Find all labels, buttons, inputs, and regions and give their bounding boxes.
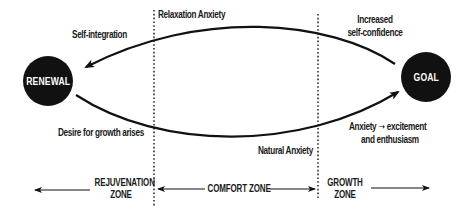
goal-label: GOAL xyxy=(413,71,438,83)
and-enthusiasm-label: and enthusiasm xyxy=(361,134,419,145)
growth-cycle-diagram: RENEWAL GOAL Self-integration Relaxation… xyxy=(0,0,472,217)
renewal-label: RENEWAL xyxy=(26,75,70,87)
rejuvenation-zone-label: REJUVENATION ZONE xyxy=(95,177,148,201)
natural-anxiety-label: Natural Anxiety xyxy=(258,145,313,156)
increased-label: Increased xyxy=(346,14,403,25)
excitement-text: excitement xyxy=(387,121,427,132)
rejuvenation-zone-line2: ZONE xyxy=(95,189,148,201)
self-confidence-label: self-confidence xyxy=(346,27,403,38)
growth-zone-label: GROWTH ZONE xyxy=(327,177,364,201)
comfort-zone-label: COMFORT ZONE xyxy=(208,183,269,195)
rejuvenation-zone-line1: REJUVENATION xyxy=(95,177,148,189)
right-arrow-icon: ➝ xyxy=(378,121,385,132)
goal-node: GOAL xyxy=(401,52,451,102)
anxiety-text: Anxiety xyxy=(349,121,376,132)
relaxation-anxiety-label: Relaxation Anxiety xyxy=(158,9,225,20)
growth-zone-line2: ZONE xyxy=(327,189,364,201)
desire-for-growth-label: Desire for growth arises xyxy=(58,127,144,138)
growth-zone-line1: GROWTH xyxy=(327,177,364,189)
anxiety-excitement-label: Anxiety ➝ excitement xyxy=(349,121,426,132)
renewal-node: RENEWAL xyxy=(23,56,73,106)
self-integration-label: Self-integration xyxy=(72,29,127,40)
